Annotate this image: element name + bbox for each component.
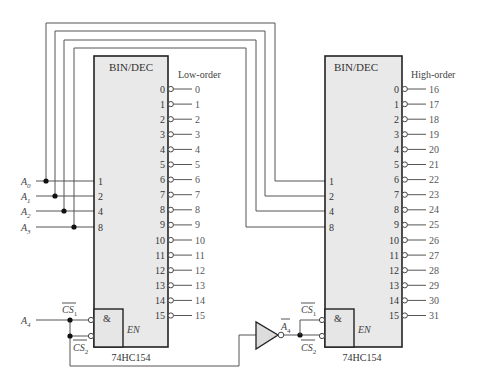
decoder-title: BIN/DEC	[109, 61, 153, 73]
output-label: 7	[195, 189, 200, 200]
input-pin-2: 2	[329, 191, 334, 202]
inverter-bubble	[278, 332, 284, 338]
and-symbol: &	[103, 313, 111, 324]
output-row: 1531	[389, 310, 439, 321]
decoder-title: BIN/DEC	[334, 61, 378, 73]
output-pin-number: 13	[155, 280, 165, 291]
output-pin-number: 2	[160, 114, 165, 125]
output-pin-number: 1	[160, 99, 165, 110]
output-bubble	[402, 237, 407, 242]
output-pin-number: 11	[389, 250, 399, 261]
output-label: 5	[195, 159, 200, 170]
label-a3: A3	[20, 222, 31, 236]
label-a1: A1	[20, 191, 31, 205]
output-row: 1010	[155, 235, 205, 246]
junction-dot	[52, 193, 57, 198]
decoder-cascade-diagram: A0 A1 A2 A3 BIN/DEC Low-order 1 2 4 8 00…	[0, 0, 480, 382]
output-pin-number: 15	[155, 310, 165, 321]
output-bubble	[402, 253, 407, 258]
output-bubble	[168, 207, 173, 212]
cs2-bubble	[319, 333, 324, 338]
output-row: 1329	[389, 280, 439, 291]
junction-dot	[67, 333, 72, 338]
part-number: 74HC154	[343, 352, 382, 363]
output-bubble	[168, 268, 173, 273]
output-pin-number: 0	[160, 84, 165, 95]
output-bubble	[402, 162, 407, 167]
junction-dot	[43, 178, 48, 183]
output-label: 4	[195, 144, 200, 155]
output-label: 20	[429, 144, 439, 155]
output-bubble	[168, 162, 173, 167]
output-label: 3	[195, 129, 200, 140]
output-pin-number: 9	[160, 219, 165, 230]
high-order-decoder: BIN/DEC High-order 1 2 4 8 0161172183194…	[301, 56, 456, 363]
address-inputs: A0 A1 A2 A3	[20, 176, 94, 236]
output-label: 29	[429, 280, 439, 291]
output-row: 1313	[155, 280, 205, 291]
output-pin-number: 5	[394, 159, 399, 170]
cs2-label: CS2	[73, 342, 89, 356]
label-a2: A2	[20, 206, 31, 220]
output-row: 1228	[389, 265, 439, 276]
output-bubble	[168, 147, 173, 152]
output-bubble	[168, 102, 173, 107]
output-label: 28	[429, 265, 439, 276]
wire-a0-to-high	[46, 23, 325, 181]
output-label: 8	[195, 204, 200, 215]
output-label: 26	[429, 235, 439, 246]
enable-label: EN	[357, 324, 372, 335]
output-bubble	[168, 192, 173, 197]
low-order-decoder: BIN/DEC Low-order 1 2 4 8 00112233445566…	[62, 56, 221, 363]
cs1-label: CS1	[301, 304, 317, 318]
output-row: 1414	[155, 295, 205, 306]
output-pin-number: 8	[394, 204, 399, 215]
output-label: 16	[429, 84, 439, 95]
output-row: 1212	[155, 265, 205, 276]
output-label: 22	[429, 174, 439, 185]
output-bubble	[402, 207, 407, 212]
output-bubble	[402, 132, 407, 137]
output-bubble	[168, 177, 173, 182]
junction-dot	[67, 317, 72, 322]
and-symbol: &	[334, 313, 342, 324]
output-label: 25	[429, 219, 439, 230]
output-bubble	[168, 117, 173, 122]
input-pin-4: 4	[329, 206, 334, 217]
output-bubble	[168, 237, 173, 242]
output-pin-number: 12	[389, 265, 399, 276]
output-label: 2	[195, 114, 200, 125]
input-pin-8: 8	[329, 222, 334, 233]
output-bubble	[168, 313, 173, 318]
output-row: 1111	[155, 250, 204, 261]
output-label: 14	[195, 295, 205, 306]
cs1-bubble	[88, 317, 93, 322]
output-pin-number: 10	[389, 235, 399, 246]
enable-label: EN	[126, 324, 141, 335]
label-a0: A0	[20, 176, 31, 190]
output-label: 30	[429, 295, 439, 306]
output-pin-number: 4	[160, 144, 165, 155]
input-pin-4: 4	[98, 206, 103, 217]
part-number: 74HC154	[112, 352, 151, 363]
output-pin-number: 5	[160, 159, 165, 170]
junction-dot	[61, 208, 66, 213]
output-label: 27	[429, 250, 439, 261]
output-bubble	[402, 298, 407, 303]
output-row: 1127	[389, 250, 439, 261]
output-bubble	[168, 298, 173, 303]
output-pin-number: 15	[389, 310, 399, 321]
output-label: 11	[195, 250, 205, 261]
output-pin-number: 6	[394, 174, 399, 185]
output-bubble	[168, 86, 173, 91]
input-pin-8: 8	[98, 222, 103, 233]
output-pin-number: 8	[160, 204, 165, 215]
output-label: 23	[429, 189, 439, 200]
output-label: 13	[195, 280, 205, 291]
output-pin-number: 0	[394, 84, 399, 95]
output-pin-number: 7	[160, 189, 165, 200]
output-bubble	[402, 102, 407, 107]
output-pin-number: 14	[155, 295, 165, 306]
output-pin-number: 13	[389, 280, 399, 291]
output-bubble	[402, 192, 407, 197]
